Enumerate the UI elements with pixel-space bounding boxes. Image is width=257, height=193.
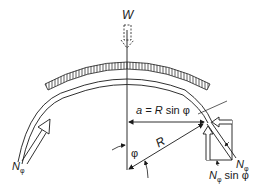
shell-diagram [0,0,257,193]
hatched-band [45,62,210,90]
left-force-label: Nφ [12,161,25,174]
angle-r-pointer [145,161,148,178]
angle-phi-pointer [112,145,125,150]
vertical-component-label: Nφ sin φ [209,170,249,183]
load-label: W [122,9,133,21]
load-arrow [121,25,134,48]
angle-label: φ [131,148,138,159]
span-label: a = R sin φ [136,105,190,116]
force-triangle [198,101,236,166]
left-force-arrow [22,119,50,164]
